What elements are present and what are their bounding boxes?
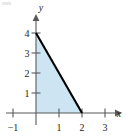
y-axis-arrow-icon [33, 14, 40, 21]
coordinate-plot: −1 1 2 3 1 2 3 4 x y [0, 0, 126, 138]
y-tick-label-3: 3 [25, 48, 30, 59]
x-tick-label-3: 3 [103, 122, 108, 133]
x-tick-label--1: −1 [8, 122, 19, 133]
x-axis-label: x [116, 108, 122, 119]
y-tick-label-1: 1 [25, 88, 30, 99]
x-tick-label-2: 2 [80, 122, 85, 133]
y-tick-label-4: 4 [25, 28, 30, 39]
figure-container: −1 1 2 3 1 2 3 4 x y [0, 0, 126, 138]
scan-artifact [2, 2, 11, 5]
y-tick-label-2: 2 [25, 68, 30, 79]
x-tick-label-1: 1 [57, 122, 62, 133]
y-axis-label: y [38, 2, 44, 13]
